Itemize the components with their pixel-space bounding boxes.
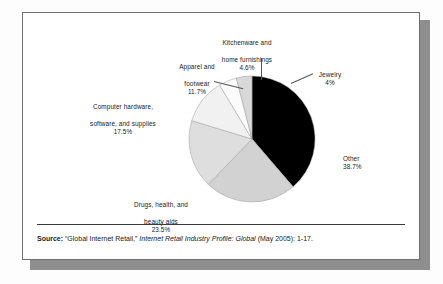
slice-label-other: Other 38.7% xyxy=(343,147,389,180)
source-label: Source: xyxy=(37,235,63,242)
slice-label-jewelry: Jewelry 4% xyxy=(305,63,355,96)
slice-label-drugs-line1: Drugs, health, and xyxy=(134,201,188,208)
source-note: Source: “Global Internet Retail,” Intern… xyxy=(37,235,409,242)
source-title: “Global Internet Retail,” xyxy=(65,235,137,242)
slice-label-jewelry-line1: Jewelry xyxy=(319,71,341,78)
slice-label-computer-line1: Computer hardware, xyxy=(93,103,153,110)
source-publication: Internet Retail Industry Profile: Global xyxy=(139,235,255,242)
slice-label-other-line1: Other xyxy=(343,155,359,162)
slice-label-computer-line2: software, and supplies xyxy=(90,120,156,127)
slice-value-drugs: 23.5% xyxy=(115,226,207,234)
source-citation: (May 2005): 1-17. xyxy=(258,235,313,242)
slice-label-kitchenware-line1: Kitchenware and xyxy=(222,39,271,46)
slice-value-other: 38.7% xyxy=(343,163,389,171)
slice-label-computer: Computer hardware, software, and supplie… xyxy=(71,95,175,144)
slice-value-jewelry: 4% xyxy=(305,79,355,87)
slice-value-computer: 17.5% xyxy=(71,128,175,136)
footer-divider xyxy=(37,224,405,225)
figure-frame: Kitchenware and home furnishings 4.6% Je… xyxy=(22,12,420,260)
slice-label-apparel-line1: Apparel and xyxy=(179,63,215,70)
slice-label-apparel-line2: footwear xyxy=(184,80,209,87)
figure-root: Kitchenware and home furnishings 4.6% Je… xyxy=(0,0,443,284)
pie-chart: Kitchenware and home furnishings 4.6% Je… xyxy=(23,13,419,223)
